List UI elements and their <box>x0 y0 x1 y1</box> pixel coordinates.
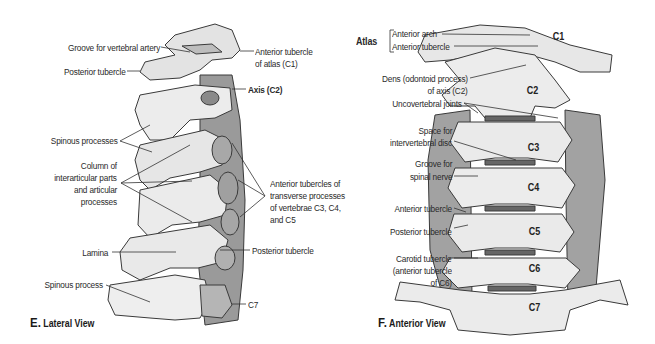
caption-title-lateral: Lateral View <box>43 318 94 329</box>
caption-letter-e: E. <box>30 315 41 330</box>
label-column-line3: and articular <box>74 184 117 195</box>
label-carotid-line2: (anterior tubercle <box>393 265 452 276</box>
label-posterior-tubercle-atlas: Posterior tubercle <box>64 66 126 77</box>
anterior-cervical-spine-illustration <box>330 0 655 344</box>
label-groove-vertebral-artery: Groove for vertebral artery <box>68 42 160 53</box>
label-column-line4: processes <box>81 196 117 207</box>
label-posterior-tubercle: Posterior tubercle <box>390 226 452 237</box>
label-space-disc-line2: intervertebral disc <box>390 137 452 148</box>
label-anterior-tubercle-atlas: Anterior tubercle <box>392 41 450 52</box>
label-spinous-processes: Spinous processes <box>51 135 118 146</box>
vertebra-label-c5: C5 <box>529 226 541 237</box>
lateral-view-caption: E. Lateral View <box>30 315 94 330</box>
label-anterior-tubercle-atlas-line2: of atlas (C1) <box>255 58 298 69</box>
vertebra-label-c3: C3 <box>528 142 540 153</box>
label-uncovertebral-joints: Uncovertebral joints <box>393 98 462 109</box>
label-groove-nerve-line2: spinal nerve <box>410 171 452 182</box>
anterior-view-panel: Atlas Anterior arch Anterior tubercle De… <box>330 0 655 344</box>
label-anterior-tubercle: Anterior tubercle <box>394 203 452 214</box>
label-spinous-process: Spinous process <box>45 279 103 290</box>
label-space-disc-line1: Space for <box>418 125 452 136</box>
caption-title-anterior: Anterior View <box>389 318 446 329</box>
label-c7-lateral: C7 <box>248 299 258 310</box>
label-lamina: Lamina <box>82 247 108 258</box>
vertebra-label-c4: C4 <box>528 182 540 193</box>
anterior-view-caption: F. Anterior View <box>378 315 446 330</box>
label-anterior-tubercles-line4: and C5 <box>270 214 296 225</box>
label-dens-line1: Dens (odontoid process) <box>382 73 468 84</box>
label-column-line1: Column of <box>81 160 117 171</box>
caption-letter-f: F. <box>378 315 387 330</box>
label-dens-line2: of axis (C2) <box>428 85 468 96</box>
vertebra-label-c1: C1 <box>553 31 565 42</box>
label-posterior-tubercle-lower: Posterior tubercle <box>252 245 314 256</box>
label-anterior-arch: Anterior arch <box>392 28 437 39</box>
vertebra-label-c7: C7 <box>529 302 541 313</box>
label-carotid-line3: of C6) <box>431 277 452 288</box>
lateral-view-panel: Groove for vertebral artery Posterior tu… <box>0 0 330 344</box>
label-carotid-line1: Carotid tubercle <box>397 253 452 264</box>
label-groove-nerve-line1: Groove for <box>415 158 452 169</box>
vertebra-label-c6: C6 <box>529 263 541 274</box>
label-column-line2: interarticular parts <box>54 172 117 183</box>
vertebra-label-c2: C2 <box>527 85 539 96</box>
label-axis-c2: Axis (C2) <box>248 84 282 95</box>
label-atlas-group: Atlas <box>356 36 377 47</box>
label-anterior-tubercle-atlas-line1: Anterior tubercle <box>255 46 313 57</box>
